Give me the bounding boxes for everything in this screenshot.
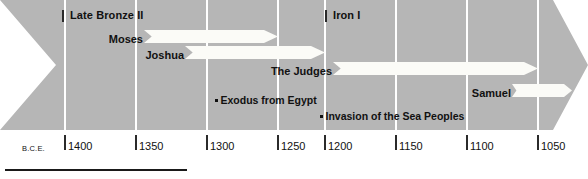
- bullet-dot-icon: [320, 115, 323, 118]
- axis-tick-6: [466, 135, 468, 150]
- period-label-2: The Judges: [271, 65, 333, 77]
- axis-tick-5: [395, 135, 397, 150]
- event-item-1: Invasion of the Sea Peoples: [320, 110, 464, 122]
- era-label-0: Late Bronze II: [70, 9, 144, 21]
- gridline-0: [64, 0, 66, 130]
- axis-tick-4: [324, 135, 326, 150]
- axis-tick-label-5: 1150: [399, 140, 423, 152]
- gridline-2: [206, 0, 208, 130]
- timeline-diagram: Late Bronze IIIron I MosesJoshuaThe Judg…: [0, 0, 588, 179]
- period-arrow-2: [333, 62, 538, 75]
- axis-tick-7: [537, 135, 539, 150]
- axis-tick-0: [64, 135, 66, 150]
- footer-divider: [5, 169, 187, 171]
- axis-tick-label-3: 1250: [281, 140, 305, 152]
- axis-tick-label-2: 1300: [210, 140, 234, 152]
- axis-tick-label-7: 1050: [541, 140, 565, 152]
- period-band-2: The Judges: [333, 62, 538, 75]
- era-label-1: Iron I: [333, 9, 361, 21]
- period-band-0: Moses: [144, 30, 278, 43]
- axis-era-label: B.C.E.: [22, 144, 45, 153]
- period-arrow-3: [512, 84, 572, 97]
- axis-tick-3: [277, 135, 279, 150]
- axis-tick-1: [135, 135, 137, 150]
- period-label-0: Moses: [109, 33, 144, 45]
- axis-tick-label-4: 1200: [328, 140, 352, 152]
- timeline-axis: B.C.E. 14001350130012501200115011001050: [0, 130, 588, 162]
- period-label-1: Joshua: [145, 49, 185, 61]
- axis-tick-2: [206, 135, 208, 150]
- axis-tick-label-6: 1100: [470, 140, 494, 152]
- period-arrow-0: [144, 30, 278, 43]
- axis-tick-label-0: 1400: [68, 140, 92, 152]
- period-band-3: Samuel: [512, 84, 572, 97]
- era-tick-1: [325, 10, 327, 22]
- period-label-3: Samuel: [472, 87, 512, 99]
- period-band-1: Joshua: [185, 46, 325, 59]
- axis-tick-label-1: 1350: [139, 140, 163, 152]
- era-tick-0: [62, 10, 64, 22]
- event-label-0: Exodus from Egypt: [221, 94, 317, 106]
- period-arrow-1: [185, 46, 325, 59]
- bullet-dot-icon: [215, 99, 218, 102]
- event-label-1: Invasion of the Sea Peoples: [326, 110, 465, 122]
- event-item-0: Exodus from Egypt: [215, 94, 317, 106]
